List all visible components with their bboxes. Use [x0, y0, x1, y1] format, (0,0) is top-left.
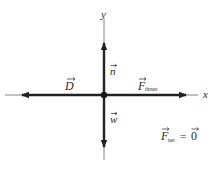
- thrust-label: F thrust: [137, 78, 158, 94]
- equals-sign: =: [180, 130, 186, 142]
- weight-symbol: w: [110, 113, 118, 125]
- net-force-value: 0: [191, 129, 197, 143]
- origin-point: [101, 92, 107, 98]
- free-body-diagram: y x n w D F thrust F net = 0: [0, 0, 217, 169]
- y-axis-label: y: [100, 8, 106, 20]
- thrust-subscript: thrust: [145, 86, 158, 92]
- drag-symbol: D: [64, 79, 74, 93]
- net-force-equation: F net = 0: [160, 128, 199, 144]
- drag-label: D: [64, 78, 75, 94]
- weight-label: w: [110, 112, 118, 125]
- net-force-subscript: net: [168, 137, 175, 143]
- normal-force-label: n: [110, 64, 117, 77]
- x-axis-label: x: [202, 88, 208, 100]
